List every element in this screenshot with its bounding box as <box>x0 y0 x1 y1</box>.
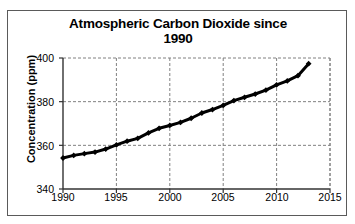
axis-lines <box>63 58 330 189</box>
data-point-marker <box>81 151 87 157</box>
data-series-markers <box>60 61 311 161</box>
plot-area <box>8 11 348 217</box>
gridlines <box>63 58 330 189</box>
chart-frame: Atmospheric Carbon Dioxide since 1990 Co… <box>7 10 347 216</box>
data-series-line <box>63 64 309 158</box>
